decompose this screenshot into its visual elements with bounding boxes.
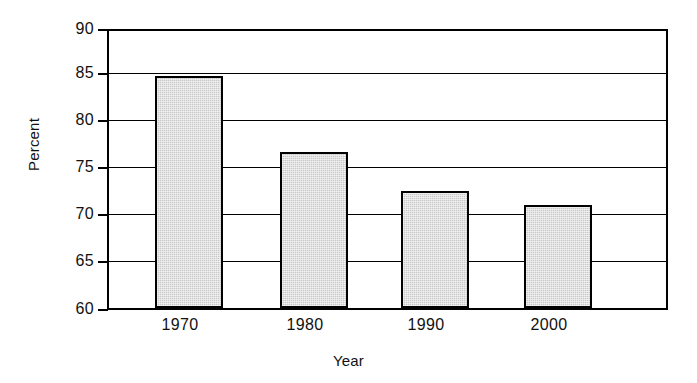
x-tick-label-1990: 1990 <box>359 316 493 334</box>
bar-2000 <box>524 205 592 308</box>
y-tick-label-75: 75 <box>52 159 94 175</box>
x-tick-label-1970: 1970 <box>113 316 247 334</box>
y-tick-label-65: 65 <box>52 253 94 269</box>
bar-1980 <box>280 152 348 308</box>
bar-1990 <box>401 191 469 308</box>
x-tick-label-2000: 2000 <box>482 316 616 334</box>
x-tick-label-1980: 1980 <box>238 316 372 334</box>
y-tick-label-80: 80 <box>52 112 94 128</box>
x-axis-title: Year <box>0 352 697 369</box>
y-tick-label-90: 90 <box>52 21 94 37</box>
gridline-85 <box>109 73 666 74</box>
y-tick-label-70: 70 <box>52 206 94 222</box>
y-axis-title: Percent <box>25 85 42 205</box>
y-axis-tick-labels: 90 85 80 75 70 65 60 <box>52 0 94 383</box>
bar-chart: Percent 90 85 80 75 70 65 60 1970 1980 1… <box>0 0 697 383</box>
y-tick-label-60: 60 <box>52 301 94 317</box>
bar-1970 <box>155 76 223 308</box>
plot-area <box>107 29 668 310</box>
y-tick-label-85: 85 <box>52 65 94 81</box>
